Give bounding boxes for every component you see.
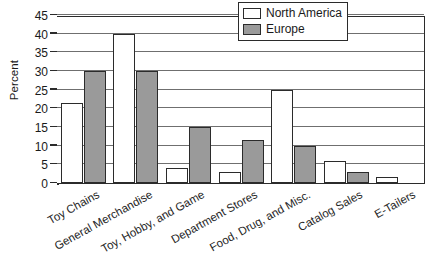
legend-item-north-america: North America	[243, 5, 342, 21]
x-axis-category-labels: Toy ChainsGeneral MerchandiseToy, Hobby,…	[0, 185, 436, 272]
x-axis-category-label: E-Tailers	[373, 189, 418, 221]
y-axis-tickmark	[50, 182, 57, 184]
y-axis-tickmark	[50, 70, 57, 72]
y-axis-tickmark	[50, 88, 57, 90]
bar-europe	[189, 127, 211, 183]
bars-layer	[57, 17, 424, 183]
y-axis-tick-label: 5	[41, 159, 48, 171]
bar-north-america	[219, 172, 241, 183]
bar-north-america	[61, 103, 83, 183]
north-america-swatch	[243, 8, 261, 19]
bar-europe	[136, 71, 158, 183]
legend-label-europe: Europe	[266, 23, 305, 35]
y-axis-tickmark	[50, 163, 57, 165]
y-axis-tick-label: 45	[35, 10, 48, 22]
y-axis-title: Percent	[8, 40, 20, 120]
y-axis-tick-label: 15	[35, 122, 48, 134]
europe-swatch	[243, 24, 261, 35]
bar-north-america	[376, 177, 398, 183]
bar-europe	[347, 172, 369, 183]
y-axis-tickmark	[50, 126, 57, 128]
y-axis-tick-label: 10	[35, 141, 48, 153]
legend-label-north-america: North America	[266, 7, 342, 19]
bar-north-america	[271, 90, 293, 183]
y-axis-tick-label: 40	[35, 29, 48, 41]
legend-item-europe: Europe	[243, 21, 342, 37]
y-axis-tick-labels: 051015202530354045	[28, 16, 48, 184]
y-axis-tick-label: 30	[35, 66, 48, 78]
y-axis-tickmark	[50, 14, 57, 16]
y-axis-tick-label: 35	[35, 47, 48, 59]
bar-north-america	[324, 161, 346, 183]
bar-north-america	[113, 34, 135, 183]
chart-legend: North America Europe	[238, 2, 348, 41]
y-axis-tick-label: 20	[35, 103, 48, 115]
y-axis-tickmark	[50, 32, 57, 34]
bar-chart: Percent 051015202530354045 North America…	[0, 0, 436, 272]
y-axis-tickmark	[50, 51, 57, 53]
y-axis-tickmark	[50, 107, 57, 109]
bar-north-america	[166, 168, 188, 183]
bar-europe	[242, 140, 264, 183]
y-axis-tick-label: 25	[35, 85, 48, 97]
bar-europe	[294, 146, 316, 183]
plot-area	[57, 16, 425, 184]
y-axis-tickmark	[50, 144, 57, 146]
bar-europe	[84, 71, 106, 183]
